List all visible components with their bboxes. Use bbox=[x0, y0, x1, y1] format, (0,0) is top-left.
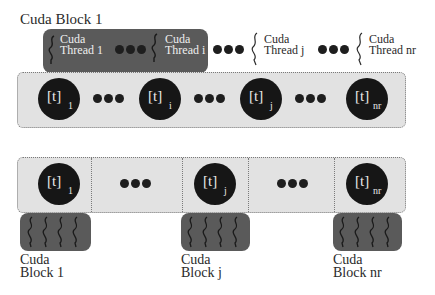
thread-i-label: CudaThread i bbox=[165, 34, 205, 56]
threads-icon bbox=[338, 216, 398, 248]
cuda-block-nr-label: CudaBlock nr bbox=[333, 253, 382, 279]
ellipsis-icon bbox=[318, 45, 349, 54]
cuda-block-nr-threads bbox=[333, 213, 402, 251]
threads-icon bbox=[186, 216, 246, 248]
ellipsis-icon bbox=[120, 179, 151, 188]
block-data-strip-bottom: [t]1 [t]j [t]nr bbox=[17, 157, 406, 213]
thread-squiggle-icon bbox=[47, 35, 57, 65]
thread-nr-label: CudaThread nr bbox=[369, 34, 416, 56]
cuda-block-1-box: CudaThread 1 CudaThread i bbox=[43, 29, 208, 73]
ellipsis-icon bbox=[93, 94, 124, 103]
data-cell-1: [t]1 bbox=[38, 78, 80, 120]
data-cell-j: [t]j bbox=[240, 78, 282, 120]
thread-1-label: CudaThread 1 bbox=[60, 34, 103, 56]
ellipsis-icon bbox=[213, 45, 244, 54]
data-cell-i: [t]i bbox=[139, 78, 181, 120]
thread-data-strip-top: [t]1 [t]i [t]j [t]nr bbox=[17, 72, 406, 128]
cuda-block-j-threads bbox=[181, 213, 250, 251]
ellipsis-icon bbox=[115, 45, 146, 54]
cuda-block-1-threads bbox=[20, 213, 91, 251]
ellipsis-icon bbox=[295, 94, 326, 103]
block-cell-1: [t]1 bbox=[38, 163, 80, 205]
cuda-block-1-label: CudaBlock 1 bbox=[20, 253, 64, 279]
data-cell-nr: [t]nr bbox=[346, 78, 388, 120]
thread-squiggle-icon bbox=[355, 32, 365, 66]
block-cell-nr: [t]nr bbox=[346, 163, 388, 205]
thread-j-label: CudaThread j bbox=[264, 34, 304, 56]
thread-squiggle-icon bbox=[150, 33, 160, 63]
block-cell-j: [t]j bbox=[194, 163, 236, 205]
threads-icon bbox=[26, 216, 86, 248]
thread-squiggle-icon bbox=[250, 32, 260, 66]
cuda-block-1-title: Cuda Block 1 bbox=[20, 13, 103, 26]
cuda-block-j-label: CudaBlock j bbox=[181, 253, 222, 279]
ellipsis-icon bbox=[194, 94, 225, 103]
ellipsis-icon bbox=[277, 179, 308, 188]
